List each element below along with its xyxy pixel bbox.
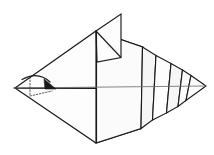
dorsal-fin-face: [96, 14, 121, 62]
origami-fold-diagram: Origami fold step diagram: [0, 0, 214, 155]
origami-diagram-container: Origami fold step diagram: [0, 0, 214, 155]
